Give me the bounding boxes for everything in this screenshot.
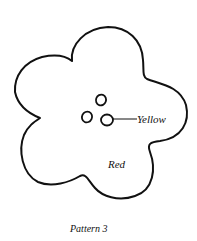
center-dot-top — [94, 93, 107, 107]
center-dot-right — [101, 115, 113, 126]
center-dot-left — [80, 110, 94, 124]
flower-pattern: Yellow Red Pattern 3 — [0, 0, 197, 241]
pattern-title: Pattern 3 — [69, 223, 108, 234]
red-label: Red — [107, 158, 126, 170]
yellow-label: Yellow — [137, 113, 167, 125]
